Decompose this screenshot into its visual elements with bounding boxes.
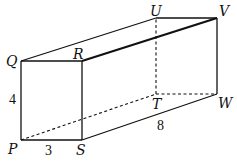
edge-QU xyxy=(21,18,156,61)
vertex-label-w: W xyxy=(218,95,234,111)
dimension-label-ps: 3 xyxy=(45,143,52,158)
vertex-label-v: V xyxy=(219,3,231,19)
vertex-label-u: U xyxy=(150,3,163,19)
vertex-label-q: Q xyxy=(6,53,18,69)
edge-SW xyxy=(82,94,217,140)
vertex-label-t: T xyxy=(152,96,163,112)
vertex-label-p: P xyxy=(7,141,18,157)
edge-PT xyxy=(21,94,156,140)
dimension-label-sw: 8 xyxy=(157,118,164,133)
vertex-label-s: S xyxy=(76,142,86,158)
edge-RV xyxy=(82,18,217,61)
dimension-label-pq: 4 xyxy=(9,92,16,107)
vertex-label-r: R xyxy=(72,46,84,62)
prism-diagram: Q R P S U V T W 4 3 8 xyxy=(0,0,237,162)
